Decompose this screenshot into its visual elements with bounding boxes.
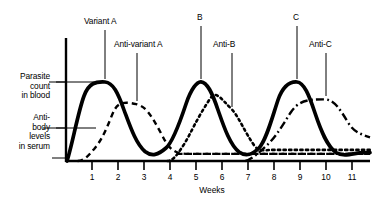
x-tick-label-10: 10 bbox=[319, 172, 333, 182]
callout-variant-c: C bbox=[293, 13, 299, 23]
x-tick-label-7: 7 bbox=[241, 172, 255, 182]
callout-variant-b: B bbox=[197, 13, 203, 23]
x-axis-ticks bbox=[92, 161, 352, 170]
x-tick-label-4: 4 bbox=[163, 172, 177, 182]
x-tick-label-9: 9 bbox=[293, 172, 307, 182]
parasite-count-in-blood-label: Parasite count in blood bbox=[0, 72, 50, 101]
x-tick-label-6: 6 bbox=[215, 172, 229, 182]
axis-lines bbox=[66, 38, 370, 162]
x-tick-label-11: 11 bbox=[345, 172, 359, 182]
antibody-levels-in-serum-label: Anti- body levels in serum bbox=[0, 113, 50, 151]
callout-anti-variant-a: Anti-variant A bbox=[114, 40, 162, 50]
antibody-label-line-4: in serum bbox=[0, 142, 50, 152]
x-tick-label-2: 2 bbox=[111, 172, 125, 182]
antigenic-variation-figure: Parasite count in blood Anti- body level… bbox=[0, 0, 376, 198]
callout-anti-c: Anti-C bbox=[309, 40, 332, 50]
plot-canvas bbox=[0, 0, 376, 198]
x-tick-label-5: 5 bbox=[189, 172, 203, 182]
x-axis-title: Weeks bbox=[182, 185, 242, 195]
curve-anti-c bbox=[245, 99, 370, 161]
curve-anti-variant-a bbox=[78, 103, 370, 161]
x-tick-label-1: 1 bbox=[85, 172, 99, 182]
x-tick-label-8: 8 bbox=[267, 172, 281, 182]
parasite-label-line-3: in blood bbox=[0, 91, 50, 101]
callout-variant-a: Variant A bbox=[84, 17, 116, 27]
x-tick-label-3: 3 bbox=[137, 172, 151, 182]
callout-anti-b: Anti-B bbox=[213, 40, 235, 50]
